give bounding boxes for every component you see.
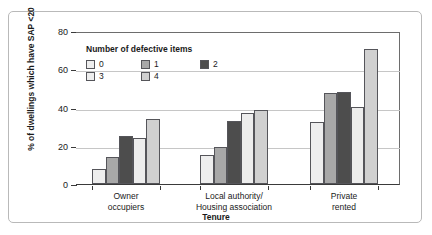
bar bbox=[351, 107, 365, 184]
bar bbox=[92, 169, 106, 184]
y-axis-tick-label-wrap: 0 bbox=[40, 181, 68, 190]
y-axis-tick-label-wrap: 40 bbox=[40, 105, 68, 114]
x-axis-tick bbox=[310, 186, 311, 190]
x-axis-category-label: Owner occupiers bbox=[66, 191, 186, 212]
bar bbox=[337, 92, 351, 184]
legend-label: 3 bbox=[99, 72, 104, 81]
y-axis-tick-label: 80 bbox=[42, 28, 68, 37]
legend-label: 2 bbox=[213, 60, 218, 69]
bar bbox=[227, 121, 241, 184]
bar bbox=[106, 157, 120, 184]
legend-swatch bbox=[200, 60, 209, 69]
bar bbox=[310, 122, 324, 184]
y-axis-tick-label: 0 bbox=[42, 181, 68, 190]
legend-swatch bbox=[86, 60, 95, 69]
legend: Number of defective items 01234 bbox=[82, 44, 250, 84]
bar bbox=[241, 113, 255, 184]
bar bbox=[324, 93, 338, 184]
y-axis-tick-label-wrap: 80 bbox=[40, 28, 68, 37]
x-axis-tick bbox=[160, 186, 161, 190]
legend-swatch bbox=[141, 60, 150, 69]
y-axis-tick-label-wrap: 20 bbox=[40, 143, 68, 152]
bar bbox=[146, 119, 160, 184]
x-axis-tick bbox=[378, 186, 379, 190]
y-axis-tick-label: 20 bbox=[42, 143, 68, 152]
legend-label: 4 bbox=[154, 72, 159, 81]
bar bbox=[133, 138, 147, 184]
bar bbox=[200, 155, 214, 184]
x-axis-tick bbox=[92, 186, 93, 190]
y-axis-title: % of dwellings which have SAP <20 bbox=[26, 4, 36, 154]
x-axis-tick bbox=[268, 186, 269, 190]
x-axis-tick bbox=[200, 186, 201, 190]
bar bbox=[254, 110, 268, 184]
bar bbox=[119, 136, 133, 184]
chart-figure: % of dwellings which have SAP <20 020406… bbox=[0, 0, 432, 235]
legend-label: 1 bbox=[154, 60, 159, 69]
y-axis-tick-label: 40 bbox=[42, 105, 68, 114]
x-axis-category-label: Local authority/ Housing association bbox=[174, 191, 294, 212]
legend-label: 0 bbox=[99, 60, 104, 69]
legend-swatch bbox=[86, 72, 95, 81]
legend-title: Number of defective items bbox=[86, 44, 192, 54]
legend-swatch bbox=[141, 72, 150, 81]
bar bbox=[214, 147, 228, 184]
y-axis-tick-label-wrap: 60 bbox=[40, 66, 68, 75]
x-axis-title: Tenure bbox=[0, 212, 432, 222]
x-axis-category-label: Private rented bbox=[284, 191, 404, 212]
y-axis-tick bbox=[71, 185, 76, 186]
y-axis-tick-label: 60 bbox=[42, 66, 68, 75]
bar bbox=[364, 49, 378, 184]
